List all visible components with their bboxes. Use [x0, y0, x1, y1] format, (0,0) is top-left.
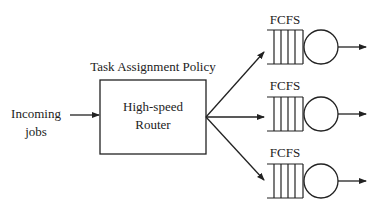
- server-circle-1: [304, 30, 338, 64]
- diagram-canvas: Incoming jobs Task Assignment Policy Hig…: [0, 0, 380, 210]
- server-1: FCFS: [267, 12, 366, 64]
- server-circle-3: [304, 164, 338, 198]
- fcfs-label-1: FCFS: [270, 12, 300, 27]
- fcfs-label-2: FCFS: [270, 78, 300, 93]
- incoming-label-line2: jobs: [24, 124, 47, 139]
- server-circle-2: [304, 97, 338, 131]
- router-label-line1: High-speed: [123, 99, 183, 114]
- incoming-label-line1: Incoming: [11, 106, 61, 121]
- server-2: FCFS: [267, 78, 366, 131]
- server-3: FCFS: [267, 145, 366, 198]
- router-label-line2: Router: [135, 117, 171, 132]
- queue-buffer-1: [267, 30, 303, 64]
- route-arrow-3: [206, 117, 264, 180]
- policy-label: Task Assignment Policy: [90, 59, 216, 74]
- fcfs-label-3: FCFS: [270, 145, 300, 160]
- queue-buffer-3: [267, 164, 303, 198]
- queue-buffer-2: [267, 97, 303, 131]
